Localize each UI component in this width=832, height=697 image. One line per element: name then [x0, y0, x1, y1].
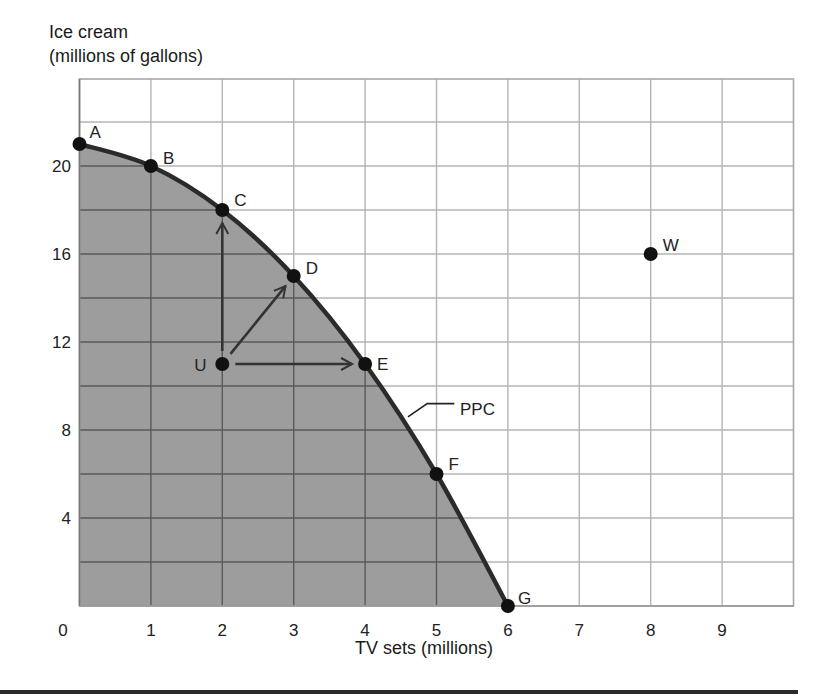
x-tick-label: 2 [218, 621, 227, 640]
y-tick-label: 16 [52, 245, 71, 264]
point-label-f: F [449, 455, 459, 474]
point-label-w: W [663, 236, 679, 255]
point-f [430, 467, 444, 481]
point-c [215, 203, 229, 217]
point-a [73, 137, 87, 151]
y-tick-label: 12 [52, 333, 71, 352]
ppc-leader-line [408, 404, 454, 417]
x-tick-label: 6 [503, 621, 512, 640]
point-label-b: B [163, 149, 174, 168]
ppc-label: PPC [460, 400, 495, 419]
y-tick-label: 4 [62, 509, 71, 528]
point-label-c: C [234, 191, 246, 210]
point-g [501, 599, 515, 613]
point-label-d: D [306, 259, 318, 278]
point-label-g: G [518, 589, 531, 608]
x-tick-label: 3 [289, 621, 298, 640]
x-tick-label: 9 [717, 621, 726, 640]
point-b [144, 159, 158, 173]
point-label-u: U [194, 356, 206, 375]
x-tick-label: 8 [646, 621, 655, 640]
point-e [358, 357, 372, 371]
point-label-e: E [377, 355, 388, 374]
bottom-rule [0, 690, 798, 694]
x-axis-label: TV sets (millions) [355, 638, 493, 659]
ppc-chart: 012345678920161284PPCABCDEFGUW [0, 0, 832, 697]
point-u [215, 357, 229, 371]
x-tick-label: 7 [575, 621, 584, 640]
x-tick-label: 1 [146, 621, 155, 640]
point-d [287, 269, 301, 283]
point-label-a: A [90, 123, 102, 142]
point-w [644, 247, 658, 261]
y-tick-label: 20 [52, 157, 71, 176]
y-tick-label: 8 [62, 421, 71, 440]
x-tick-label: 0 [58, 621, 67, 640]
